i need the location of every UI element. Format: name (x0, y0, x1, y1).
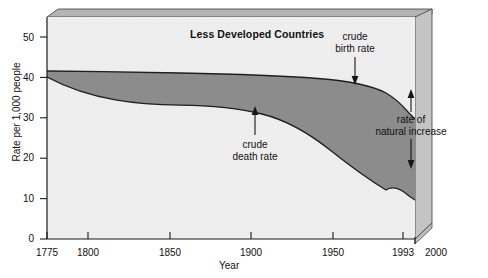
x-axis-label: Year (219, 261, 239, 271)
chart-title: Less Developed Countries (190, 29, 324, 40)
annotation-rate-of-natural-increase: rate of natural increase (366, 114, 456, 137)
annotation-natural-increase-line2: natural increase (375, 126, 446, 137)
y-tick-label-40: 40 (8, 73, 34, 83)
y-tick-label-0: 0 (8, 234, 34, 244)
y-tick-label-50: 50 (8, 33, 34, 43)
annotation-crude-birth-rate-line2: birth rate (335, 43, 374, 54)
x-tick-label-1950: 1950 (311, 248, 355, 258)
x-tick-label-2000: 2000 (414, 248, 458, 258)
y-tick-label-10: 10 (8, 194, 34, 204)
annotation-crude-death-rate-line1: crude (242, 139, 267, 150)
x-tick-label-1850: 1850 (148, 248, 192, 258)
x-tick-label-1775: 1775 (25, 248, 69, 258)
annotation-crude-death-rate: crude death rate (215, 139, 295, 162)
box-top-face (47, 9, 432, 17)
annotation-crude-birth-rate: crude birth rate (323, 31, 387, 54)
y-axis-ticks (40, 37, 47, 239)
annotation-natural-increase-line1: rate of (397, 114, 425, 125)
x-tick-label-1900: 1900 (229, 248, 273, 258)
y-tick-label-20b: 20 (8, 153, 34, 163)
x-tick-label-1800: 1800 (66, 248, 110, 258)
annotation-crude-death-rate-line2: death rate (232, 151, 277, 162)
annotation-crude-birth-rate-line1: crude (342, 31, 367, 42)
chart-figure: Less Developed Countries Rate per 1,000 … (0, 0, 488, 278)
y-tick-label-30b: 30 (8, 113, 34, 123)
